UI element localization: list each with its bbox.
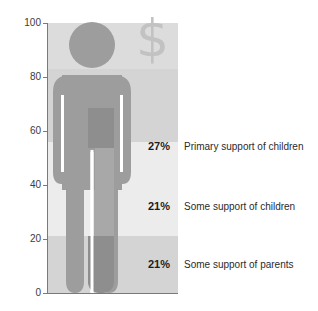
y-tick-label-80: 80: [30, 72, 41, 82]
callout-some-support-children: 21% Some support of children: [148, 200, 295, 212]
y-tick-label-60: 60: [30, 126, 41, 136]
callout-some-support-parents: 21% Some support of parents: [148, 258, 294, 270]
y-tick-label-40: 40: [30, 180, 41, 190]
callout-percent: 21%: [148, 258, 178, 270]
y-tick-mark-0: [43, 293, 48, 294]
y-tick-label-0: 0: [35, 288, 41, 298]
callout-label: Primary support of children: [184, 141, 304, 152]
y-tick-mark-100: [43, 23, 48, 24]
dollar-sign-icon: $: [136, 12, 169, 64]
y-tick-label-20: 20: [30, 234, 41, 244]
y-tick-label-100: 100: [24, 18, 41, 28]
y-tick-mark-20: [43, 239, 48, 240]
callout-primary-support: 27% Primary support of children: [148, 140, 304, 152]
inner-bar-segment-middle: [92, 148, 110, 236]
y-axis-line: [47, 23, 48, 294]
y-tick-mark-60: [43, 131, 48, 132]
y-tick-mark-80: [43, 77, 48, 78]
callout-label: Some support of parents: [184, 259, 294, 270]
band-some-support-children: [48, 142, 178, 236]
inner-bar-segment-top: [88, 108, 114, 148]
chart-figure: $: [0, 0, 318, 311]
x-axis-line: [47, 293, 178, 294]
callout-percent: 21%: [148, 200, 178, 212]
callout-label: Some support of children: [184, 201, 295, 212]
y-tick-mark-40: [43, 185, 48, 186]
inner-bar-segment-bottom: [88, 236, 114, 293]
callout-percent: 27%: [148, 140, 178, 152]
